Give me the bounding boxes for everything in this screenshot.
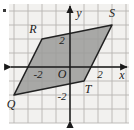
tick-label-x-negative-2: -2 xyxy=(33,68,43,80)
figure-container: x y O -2 2 2 -2 Q R S T xyxy=(0,0,134,130)
origin-label: O xyxy=(58,67,67,81)
vertex-label-s: S xyxy=(109,6,115,20)
tick-label-y-positive-2: 2 xyxy=(59,34,65,46)
vertex-label-q: Q xyxy=(7,97,16,111)
vertex-label-r: R xyxy=(28,22,37,36)
coordinate-grid-figure: x y O -2 2 2 -2 Q R S T xyxy=(0,0,134,130)
y-axis-label: y xyxy=(75,6,82,20)
tick-label-x-positive-2: 2 xyxy=(97,68,103,80)
x-axis-label: x xyxy=(118,68,125,82)
tick-label-y-negative-2: -2 xyxy=(57,90,67,102)
